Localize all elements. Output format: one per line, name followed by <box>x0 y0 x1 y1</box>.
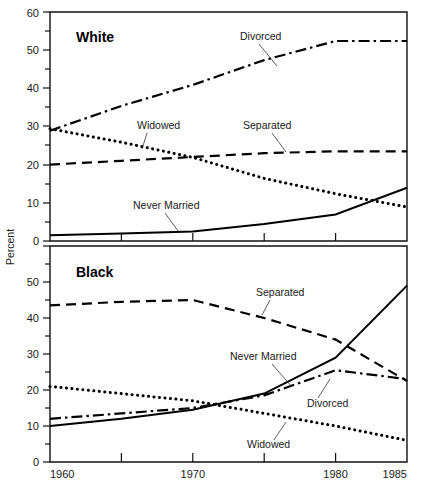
white-leader-divorced <box>259 44 277 66</box>
white-y-tick-0: 0 <box>33 235 39 247</box>
x-tick-1980: 1980 <box>323 468 347 480</box>
panel-white: 0 10 20 30 40 50 60 White Divorced Widow… <box>27 7 407 247</box>
x-tick-1970: 1970 <box>181 468 205 480</box>
marital-status-figure: Percent 0 10 20 30 40 50 60 <box>0 0 427 493</box>
white-leader-never-married <box>165 213 178 231</box>
black-y-tick-40: 40 <box>27 312 39 324</box>
white-panel-title: White <box>76 29 114 45</box>
black-series-never-married <box>50 286 407 426</box>
black-leader-divorced <box>318 379 330 398</box>
white-y-tick-50: 50 <box>27 44 39 56</box>
white-series-never-married <box>50 188 407 236</box>
white-label-separated: Separated <box>243 119 292 131</box>
black-series-divorced <box>50 370 407 419</box>
black-label-widowed: Widowed <box>247 438 290 450</box>
black-label-never-married: Never Married <box>230 350 297 362</box>
black-panel-title: Black <box>76 264 114 280</box>
panel-black: 0 10 20 30 40 50 1960 1970 1980 1985 Bla… <box>27 246 407 480</box>
white-y-major-ticks <box>43 12 50 241</box>
black-y-tick-0: 0 <box>33 456 39 468</box>
white-series-separated <box>50 151 407 164</box>
white-series-divorced <box>50 41 407 131</box>
white-label-never-married: Never Married <box>133 199 200 211</box>
white-y-tick-60: 60 <box>27 7 39 19</box>
x-tick-1985: 1985 <box>383 468 407 480</box>
white-y-tick-40: 40 <box>27 82 39 94</box>
black-y-major-ticks <box>43 246 50 462</box>
black-label-separated: Separated <box>256 286 305 298</box>
white-y-tick-20: 20 <box>27 159 39 171</box>
black-leader-separated <box>262 300 270 315</box>
white-y-tick-10: 10 <box>27 197 39 209</box>
y-axis-title: Percent <box>4 229 16 265</box>
white-y-tick-30: 30 <box>27 120 39 132</box>
black-label-divorced: Divorced <box>307 397 349 409</box>
black-y-tick-30: 30 <box>27 348 39 360</box>
black-y-tick-50: 50 <box>27 276 39 288</box>
black-x-ticks <box>121 453 335 462</box>
white-x-ticks <box>121 233 335 241</box>
black-y-tick-20: 20 <box>27 384 39 396</box>
white-label-divorced: Divorced <box>240 30 282 42</box>
white-panel-frame <box>50 12 407 241</box>
black-series-widowed <box>50 386 407 440</box>
white-series-widowed <box>50 129 407 207</box>
black-y-tick-10: 10 <box>27 420 39 432</box>
white-label-widowed: Widowed <box>137 119 180 131</box>
white-leader-separated <box>272 133 286 152</box>
x-tick-1960: 1960 <box>50 468 74 480</box>
